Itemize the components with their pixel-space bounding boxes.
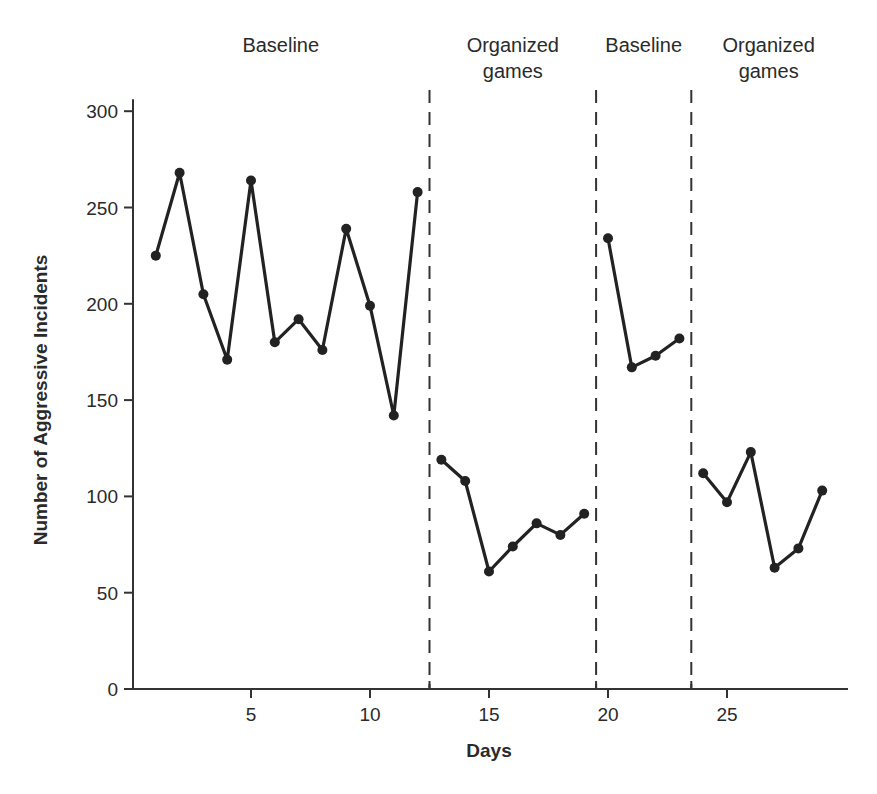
x-tick-label: 5 xyxy=(246,704,257,725)
data-point xyxy=(222,355,232,365)
data-point xyxy=(317,345,327,355)
data-point xyxy=(151,251,161,261)
y-tick-label: 0 xyxy=(107,679,118,700)
phase-label: Organizedgames xyxy=(723,34,815,82)
data-point xyxy=(484,567,494,577)
data-point xyxy=(722,497,732,507)
data-point xyxy=(175,168,185,178)
y-tick-label: 250 xyxy=(86,198,118,219)
data-point xyxy=(793,543,803,553)
phase-label: Baseline xyxy=(605,34,682,56)
series-line xyxy=(441,460,584,572)
series-line xyxy=(703,452,822,568)
x-tick-label: 20 xyxy=(597,704,618,725)
series-baseline-2 xyxy=(603,233,684,372)
line-chart: 050100150200250300510152025 BaselineOrga… xyxy=(0,0,877,794)
data-point xyxy=(555,530,565,540)
data-point xyxy=(341,224,351,234)
phase-dividers xyxy=(430,90,692,689)
data-point xyxy=(270,337,280,347)
data-point xyxy=(508,541,518,551)
series-organized-games-1 xyxy=(436,455,589,577)
data-point xyxy=(651,351,661,361)
x-axis-title: Days xyxy=(466,740,511,761)
y-tick-label: 50 xyxy=(97,583,118,604)
x-tick-label: 10 xyxy=(359,704,380,725)
data-point xyxy=(389,411,399,421)
data-point xyxy=(770,563,780,573)
data-point xyxy=(413,187,423,197)
series-line xyxy=(156,173,418,416)
data-point xyxy=(627,362,637,372)
series-line xyxy=(608,238,679,367)
series-baseline-1 xyxy=(151,168,423,421)
y-tick-label: 150 xyxy=(86,390,118,411)
phase-label: Baseline xyxy=(242,34,319,56)
x-tick-label: 25 xyxy=(716,704,737,725)
data-point xyxy=(603,233,613,243)
data-point xyxy=(746,447,756,457)
data-point xyxy=(532,518,542,528)
data-point xyxy=(817,486,827,496)
data-point xyxy=(246,176,256,186)
axes: 050100150200250300510152025 xyxy=(86,99,848,725)
data-point xyxy=(294,314,304,324)
phase-label: Organizedgames xyxy=(467,34,559,82)
data-series xyxy=(151,168,827,577)
y-tick-label: 200 xyxy=(86,294,118,315)
y-tick-label: 300 xyxy=(86,101,118,122)
y-axis-title: Number of Aggressive Incidents xyxy=(30,255,51,546)
data-point xyxy=(674,333,684,343)
y-tick-label: 100 xyxy=(86,486,118,507)
data-point xyxy=(365,301,375,311)
data-point xyxy=(436,455,446,465)
data-point xyxy=(579,509,589,519)
data-point xyxy=(698,468,708,478)
data-point xyxy=(460,476,470,486)
x-tick-label: 15 xyxy=(478,704,499,725)
data-point xyxy=(198,289,208,299)
series-organized-games-2 xyxy=(698,447,827,573)
phase-labels: BaselineOrganizedgamesBaselineOrganizedg… xyxy=(242,34,814,82)
